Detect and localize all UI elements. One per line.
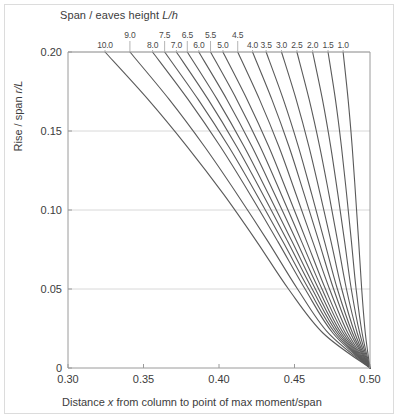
y-tick-label: 0.20 [26,46,62,58]
x-tick-label: 0.50 [359,373,380,385]
series-label-9-0: 9.0 [124,30,135,40]
series-label-8-0: 8.0 [147,40,158,50]
x-tick-label: 0.30 [57,373,78,385]
series-label-4-5: 4.5 [232,30,243,40]
y-tick-label: 0.10 [26,204,62,216]
series-label-2-0: 2.0 [307,40,318,50]
series-label-7-0: 7.0 [171,40,182,50]
x-tick-label: 0.40 [208,373,229,385]
x-tick-label: 0.35 [133,373,154,385]
series-label-6-0: 6.0 [193,40,204,50]
series-label-3-5: 3.5 [260,40,271,50]
y-tick-label: 0.05 [26,283,62,295]
series-label-10-0: 10.0 [97,40,113,50]
series-label-5-0: 5.0 [217,40,228,50]
series-label-7-5: 7.5 [159,30,170,40]
series-label-1-0: 1.0 [337,40,348,50]
y-tick-label: 0.15 [26,125,62,137]
series-label-2-5: 2.5 [291,40,302,50]
series-label-1-5: 1.5 [322,40,333,50]
x-tick-label: 0.45 [284,373,305,385]
series-label-3-0: 3.0 [276,40,287,50]
series-label-6-5: 6.5 [182,30,193,40]
series-label-4-0: 4.0 [247,40,258,50]
chart-figure: Span / eaves height L/h Rise / span r/L … [0,0,398,418]
series-label-5-5: 5.5 [205,30,216,40]
